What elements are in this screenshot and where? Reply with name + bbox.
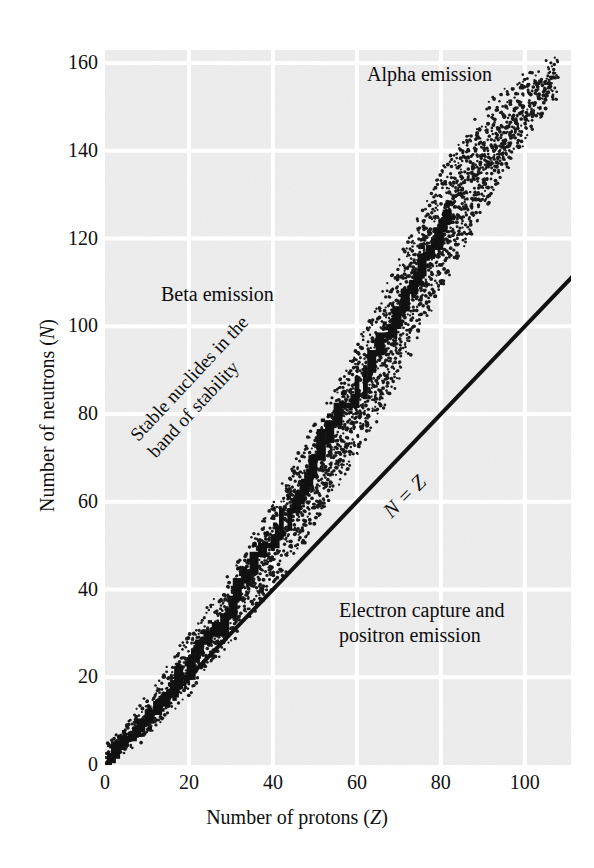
x-tick-label-20: 20 — [179, 772, 199, 792]
y-axis-title: Number of neutrons (N) — [36, 58, 59, 773]
x-tick-label-100: 100 — [510, 772, 540, 792]
x-axis-title: Number of protons (Z) — [0, 806, 594, 829]
band-of-stability-figure: Alpha emission Beta emission Electron ca… — [0, 0, 594, 868]
y-axis-title-paren: ( — [36, 339, 58, 351]
x-axis-title-paren: ( — [358, 806, 370, 828]
x-tick-label-80: 80 — [431, 772, 451, 792]
x-axis-title-paren-close: ) — [381, 806, 388, 828]
x-tick-label-0: 0 — [100, 772, 110, 792]
y-axis-title-paren-close: ) — [36, 319, 58, 326]
x-axis-title-symbol: Z — [370, 806, 381, 828]
y-axis-title-text: Number of neutrons — [36, 351, 58, 512]
y-axis-title-symbol: N — [36, 326, 58, 339]
x-axis-tick-labels: 020406080100 — [0, 0, 594, 868]
x-tick-label-60: 60 — [347, 772, 367, 792]
x-axis-title-text: Number of protons — [206, 806, 358, 828]
x-tick-label-40: 40 — [263, 772, 283, 792]
